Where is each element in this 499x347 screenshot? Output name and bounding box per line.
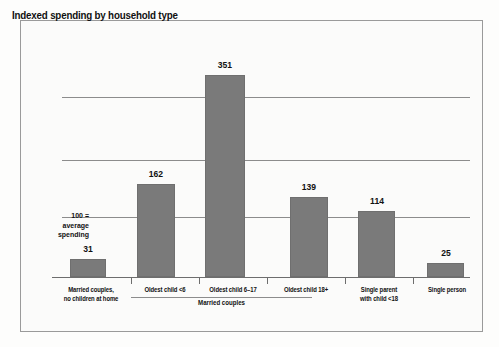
gridline-200 [62,160,470,161]
bar-married-no-children [70,259,106,277]
chart-page: Indexed spending by household type 100 =… [0,0,499,347]
axis-tick [131,278,132,284]
axis-tick [267,278,268,284]
category-label-line: Single parent [348,285,409,294]
bar-value-label: 351 [207,59,243,70]
category-label-line: Married couples, [56,285,126,294]
axis-tick [345,278,346,284]
gridline-300 [62,97,470,98]
bar-value-label: 139 [291,181,327,192]
group-bracket [131,297,312,298]
axis-annotation-line2: average [32,221,89,231]
bar-oldest-child-18-plus [290,197,328,277]
category-label-line: Oldest child <6 [135,285,194,294]
bar-value-label: 25 [428,247,464,258]
gridline-100 [62,217,470,218]
axis-tick [413,278,414,284]
category-label-single-person: Single person [417,285,476,294]
x-axis-baseline [52,277,470,278]
category-label-oldest-child-18-plus: Oldest child 18+ [272,285,340,294]
bar-value-label: 114 [359,195,395,206]
axis-tick [199,278,200,284]
axis-annotation-line1: 100 = [32,211,89,221]
bar-single-person [427,263,464,277]
bar-oldest-child-under-6 [137,184,175,277]
page-title: Indexed spending by household type [12,9,178,21]
bar-value-label: 162 [138,168,174,179]
category-label-line: no children at home [56,294,126,303]
category-label-oldest-child-under-6: Oldest child <6 [135,285,194,294]
category-label-single-parent: Single parent with child <18 [348,285,409,303]
group-bracket-label: Married couples [140,299,303,306]
category-label-line: with child <18 [348,294,409,303]
category-label-married-no-children: Married couples, no children at home [56,285,126,303]
axis-annotation: 100 = average spending [32,211,89,240]
category-label-line: Oldest child 18+ [272,285,340,294]
category-label-line: Single person [417,285,476,294]
axis-annotation-line3: spending [32,230,89,240]
category-label-line: Oldest child 6–17 [203,285,262,294]
category-label-oldest-child-6-17: Oldest child 6–17 [203,285,262,294]
bar-value-label: 31 [70,243,106,254]
bar-single-parent [358,211,395,277]
bar-oldest-child-6-17 [205,75,245,277]
